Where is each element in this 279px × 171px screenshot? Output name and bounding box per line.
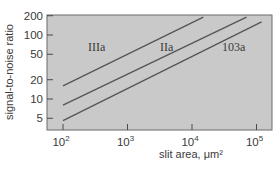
chart: 5102050100200 102103104105 IIIa IIa 103a… bbox=[0, 0, 279, 171]
y-axis-label: signal-to-noise ratio bbox=[3, 24, 15, 120]
y-tick-label: 200 bbox=[24, 10, 43, 22]
y-tick-label: 5 bbox=[37, 112, 43, 124]
series-label-103a: 103a bbox=[222, 40, 246, 54]
y-tick-label: 10 bbox=[30, 93, 43, 105]
y-tick-label: 100 bbox=[24, 29, 43, 41]
y-tick-label: 50 bbox=[30, 48, 43, 60]
y-tick-label: 20 bbox=[30, 74, 43, 86]
series-label-iia: IIa bbox=[160, 40, 174, 54]
x-tick-label: 102 bbox=[52, 134, 70, 148]
series-label-iiia: IIIa bbox=[88, 40, 106, 54]
x-axis-label: slit area, μm² bbox=[159, 148, 223, 160]
x-tick-label: 105 bbox=[246, 134, 264, 148]
x-tick-label: 104 bbox=[181, 134, 199, 148]
x-tick-label: 103 bbox=[117, 134, 135, 148]
